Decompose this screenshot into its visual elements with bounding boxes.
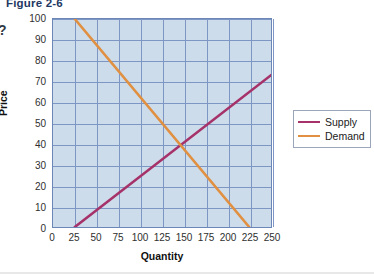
chart-plot-area: [52, 18, 272, 228]
x-axis-tick-label: 50: [90, 232, 101, 243]
legend-swatch-supply: [298, 121, 320, 124]
figure-title: Figure 2-6: [6, 0, 63, 9]
y-axis-tick-label: 20: [6, 181, 46, 192]
legend-item: Supply: [298, 115, 365, 129]
x-axis-tick-label: 100: [132, 232, 149, 243]
supply-line: [75, 75, 271, 227]
demand-line: [75, 19, 249, 227]
x-axis-tick-label: 225: [242, 232, 259, 243]
y-axis-tick-labels: 1009080706050403020100: [0, 18, 46, 228]
legend-swatch-demand: [298, 135, 320, 138]
x-axis-tick-label: 25: [68, 232, 79, 243]
chart-series-layer: [53, 19, 271, 227]
legend-label: Demand: [325, 130, 365, 142]
x-axis-tick-label: 125: [154, 232, 171, 243]
y-axis-tick-label: 90: [6, 34, 46, 45]
x-axis-tick-label: 200: [220, 232, 237, 243]
legend-item: Demand: [298, 129, 365, 143]
x-axis-tick-label: 250: [264, 232, 281, 243]
x-axis-tick-label: 75: [112, 232, 123, 243]
y-axis-tick-label: 60: [6, 97, 46, 108]
y-axis-tick-label: 40: [6, 139, 46, 150]
legend-label: Supply: [325, 116, 357, 128]
x-axis-tick-labels: 0255075100125150175200225250: [52, 232, 272, 246]
chart-lines-svg: [53, 19, 271, 227]
y-axis-title: Price: [0, 90, 9, 116]
chart-legend: SupplyDemand: [293, 110, 371, 148]
y-axis-tick-label: 70: [6, 76, 46, 87]
y-axis-tick-label: 80: [6, 55, 46, 66]
x-axis-tick-label: 175: [198, 232, 215, 243]
x-axis-title: Quantity: [52, 250, 272, 262]
y-axis-tick-label: 30: [6, 160, 46, 171]
x-axis-tick-label: 150: [176, 232, 193, 243]
y-axis-tick-label: 10: [6, 202, 46, 213]
y-axis-tick-label: 0: [6, 223, 46, 234]
y-axis-tick-label: 50: [6, 118, 46, 129]
y-axis-tick-label: 100: [6, 13, 46, 24]
gridline-vertical: [273, 19, 274, 227]
x-axis-tick-label: 0: [49, 232, 55, 243]
